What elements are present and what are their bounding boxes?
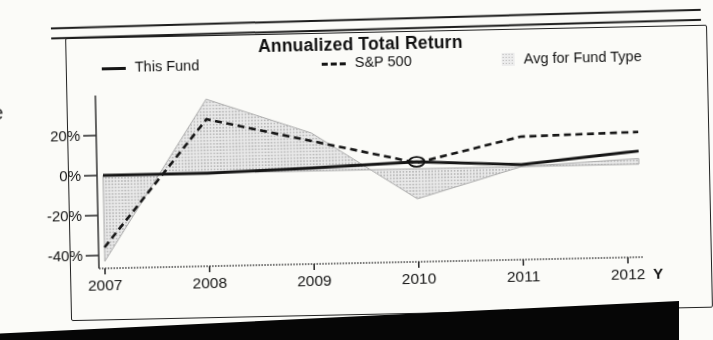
legend-label: S&P 500 [355, 53, 412, 70]
dashed-line-swatch [322, 62, 346, 66]
scanned-page: t e Annualized Total Return This Fund S&… [0, 0, 680, 340]
axis-ticks [83, 124, 628, 274]
x-axis-tick-label: 2012 [611, 265, 646, 283]
y-axis-tick-label: -20% [47, 207, 82, 225]
y-axis-tick-label: 0% [59, 167, 81, 184]
solid-line-swatch [102, 66, 126, 70]
x-axis-tick-label: 2007 [88, 276, 123, 294]
legend-label: This Fund [135, 57, 200, 74]
cut-off-text-fragment: e [0, 101, 4, 122]
return-line-chart: 20%0%-20%-40%200720082009201020112012Y [67, 81, 711, 306]
x-axis-line [99, 257, 643, 268]
x-axis-tick-label: 2009 [297, 272, 332, 290]
legend-item-this-fund: This Fund [102, 57, 200, 75]
y-axis-tick-label: -40% [48, 247, 83, 265]
x-axis-tick-label: 2010 [402, 269, 437, 287]
series-layer [101, 90, 640, 261]
y-axis-tick-label: 20% [50, 127, 80, 145]
legend-label: Avg for Fund Type [524, 48, 642, 66]
x-axis-tick-label: 2011 [507, 267, 541, 285]
chart-frame: Annualized Total Return This Fund S&P 50… [65, 25, 713, 321]
y-axis-line [95, 96, 99, 269]
shaded-area-swatch [502, 52, 515, 65]
x-axis-suffix-label: Y [653, 265, 663, 282]
legend-item-avg-fund-type: Avg for Fund Type [502, 48, 642, 67]
sp500-dashed-line [102, 110, 641, 247]
x-axis-tick-label: 2008 [192, 274, 227, 292]
avg-fund-type-area [101, 90, 640, 261]
legend-item-sp500: S&P 500 [322, 53, 412, 71]
